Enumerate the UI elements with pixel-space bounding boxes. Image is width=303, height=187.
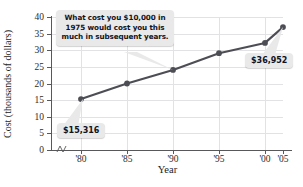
last-value-callout: $36,952 (245, 53, 293, 68)
y-tick-label-15: 15 (35, 95, 45, 105)
note-line-1: What cost you $10,000 in (60, 13, 170, 23)
y-tick-label-20: 20 (35, 79, 45, 89)
note-line-3: much in subsequent years. (60, 32, 170, 42)
data-point-90 (170, 67, 176, 73)
x-tick-label-90: '90 (167, 154, 178, 164)
data-point-95 (216, 50, 222, 56)
x-axis-title: Year (52, 164, 283, 175)
chart-figure: Cost (thousands of dollars) 40 35 30 25 … (0, 0, 303, 187)
y-tick-label-40: 40 (35, 12, 45, 22)
x-tick-label-95: '95 (213, 154, 224, 164)
axis-break-icon (56, 144, 70, 153)
y-tick-label-0: 0 (39, 145, 44, 155)
x-tick-label-85: '85 (121, 154, 132, 164)
data-point-85 (124, 81, 130, 87)
y-tick-label-5: 5 (39, 128, 44, 138)
note-callout: What cost you $10,000 in 1975 would cost… (56, 10, 174, 46)
y-tick-label-35: 35 (35, 29, 45, 39)
x-tick-label-80: '80 (75, 154, 86, 164)
y-axis-title: Cost (thousands of dollars) (0, 17, 14, 150)
data-point-80 (78, 96, 84, 102)
data-point-05 (280, 24, 286, 30)
y-tick-label-30: 30 (35, 45, 45, 55)
first-value-callout: $15,316 (57, 123, 105, 138)
y-tick-label-10: 10 (35, 112, 45, 122)
data-point-00 (262, 40, 268, 46)
y-tick-label-25: 25 (35, 62, 45, 72)
x-tick-label-00: '00 (259, 154, 270, 164)
x-tick-label-05: '05 (277, 154, 288, 164)
x-axis-line (51, 150, 292, 151)
y-axis-title-text: Cost (thousands of dollars) (2, 29, 13, 137)
y-tick-0: 0 (47, 150, 52, 151)
note-line-2: 1975 would cost you this (60, 23, 170, 33)
